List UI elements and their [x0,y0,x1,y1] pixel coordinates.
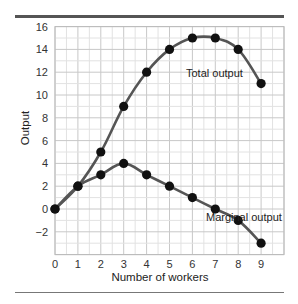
total-output-point [142,68,151,77]
marginal-output-point [96,170,105,179]
svg-text:10: 10 [36,89,48,101]
svg-text:14: 14 [36,43,48,55]
total-output-point [119,102,128,111]
total-output-label: Total output [186,67,243,79]
svg-text:4: 4 [144,258,150,270]
y-axis-ticks: 1614121086420−2 [35,21,48,238]
marginal-output-point [142,170,151,179]
total-output-point [234,45,243,54]
total-output-point [188,33,197,42]
marginal-output-point [188,193,197,202]
svg-text:0: 0 [42,203,48,215]
svg-text:−2: −2 [35,226,48,238]
svg-text:12: 12 [36,66,48,78]
svg-text:2: 2 [42,180,48,192]
svg-text:3: 3 [121,258,127,270]
x-axis-label: Number of workers [111,271,208,283]
total-output-point [96,147,105,156]
output-chart: 1614121086420−2 0123456789 Total output … [0,0,298,304]
total-output-point [165,45,174,54]
total-output-point [211,33,220,42]
marginal-output-point [50,204,59,213]
svg-text:4: 4 [42,157,48,169]
total-output-point [257,79,266,88]
svg-text:9: 9 [258,258,264,270]
marginal-output-label: Marginal output [206,211,282,223]
marginal-output-point [73,182,82,191]
svg-text:8: 8 [235,258,241,270]
svg-text:8: 8 [42,112,48,124]
x-axis-ticks: 0123456789 [52,258,264,270]
svg-text:1: 1 [75,258,81,270]
svg-text:6: 6 [189,258,195,270]
svg-text:5: 5 [166,258,172,270]
svg-text:7: 7 [212,258,218,270]
top-rule [15,15,284,18]
marginal-output-point [165,182,174,191]
y-axis-label: Output [19,110,31,145]
bottom-rule [15,292,284,293]
svg-text:2: 2 [98,258,104,270]
svg-text:0: 0 [52,258,58,270]
svg-text:16: 16 [36,21,48,33]
svg-text:6: 6 [42,135,48,147]
marginal-output-point [119,159,128,168]
marginal-output-point [257,239,266,248]
